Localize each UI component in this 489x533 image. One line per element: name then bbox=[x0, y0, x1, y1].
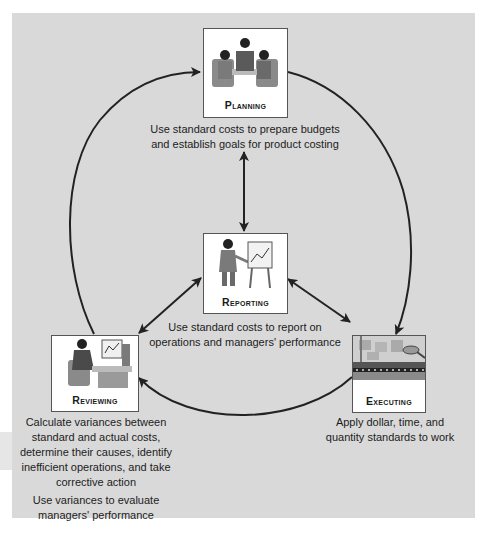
reviewing-desc-line-2: standard and actual costs, bbox=[32, 431, 160, 443]
arrow-executing-to-reviewing bbox=[139, 377, 352, 415]
reporting-desc-line-1: Use standard costs to report on bbox=[168, 321, 321, 333]
planning-desc-line-2: and establish goals for product costing bbox=[151, 138, 339, 150]
reviewing-description: Calculate variances between standard and… bbox=[12, 415, 180, 523]
reviewing-desc2-line-1: Use variances to evaluate bbox=[33, 494, 160, 506]
reviewing-desc-line-5: corrective action bbox=[56, 476, 136, 488]
arrow-reporting-executing bbox=[288, 279, 350, 322]
executing-desc-line-1: Apply dollar, time, and bbox=[336, 416, 444, 428]
reviewing-desc-line-3: determine their causes, identify bbox=[20, 446, 172, 458]
reporting-label: REPORTING bbox=[222, 296, 269, 314]
reviewing-label: REVIEWING bbox=[72, 394, 117, 412]
reviewing-desc-line-1: Calculate variances between bbox=[26, 416, 167, 428]
planning-description: Use standard costs to prepare budgets an… bbox=[140, 122, 350, 152]
assembly-line-icon bbox=[353, 336, 425, 395]
planning-desc-line-1: Use standard costs to prepare budgets bbox=[150, 123, 340, 135]
reporting-node: REPORTING bbox=[203, 233, 288, 314]
executing-description: Apply dollar, time, and quantity standar… bbox=[320, 415, 460, 445]
planning-label: PLANNING bbox=[225, 99, 266, 117]
arrow-planning-to-executing bbox=[288, 72, 411, 334]
reviewing-node: REVIEWING bbox=[51, 335, 139, 412]
reviewing-desc-line-4: inefficient operations, and take bbox=[21, 461, 170, 473]
presenter-with-chart-icon bbox=[204, 234, 287, 296]
arrow-reviewing-to-planning bbox=[70, 72, 200, 334]
meeting-people-icon bbox=[204, 29, 287, 99]
planning-node: PLANNING bbox=[203, 28, 288, 118]
reviewing-desc2-line-2: managers' performance bbox=[38, 509, 154, 521]
executing-desc-line-2: quantity standards to work bbox=[326, 431, 454, 443]
person-at-computer-icon bbox=[52, 336, 138, 394]
executing-node: EXECUTING bbox=[352, 335, 426, 413]
reporting-desc-line-2: operations and managers' performance bbox=[149, 336, 341, 348]
reporting-description: Use standard costs to report on operatio… bbox=[140, 320, 350, 350]
executing-label: EXECUTING bbox=[366, 395, 412, 413]
